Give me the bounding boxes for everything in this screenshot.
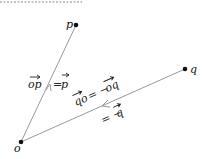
point-p [74,23,79,28]
vector-diagram: o p q op = p qo = − oq = − q [0,0,207,159]
p-vector-text: p [61,78,68,91]
arrowhead-qo-icon [102,100,110,107]
point-label-q: q [190,63,197,76]
label-op-equals-p: op = p [28,73,69,91]
label-qo-equals-neg-oq: qo = − oq [71,75,121,109]
point-q [183,67,188,72]
vector-arrow-icon [62,73,69,77]
point-label-p: p [66,18,73,31]
op-vector-text: op [28,78,42,91]
point-label-o: o [14,142,21,155]
